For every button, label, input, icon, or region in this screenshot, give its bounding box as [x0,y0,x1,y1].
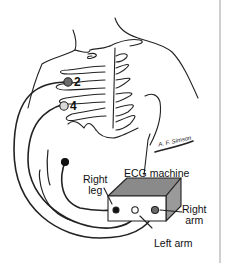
rib-r5 [116,105,133,116]
right-arm-label-line2: arm [182,215,207,226]
rib-r6 [116,115,135,130]
torso-outline-right [145,94,161,145]
sternum [113,48,115,128]
port-right-arm [152,207,159,214]
left-arm-label: Left arm [154,238,193,249]
electrode-4 [60,102,68,110]
rib-l6 [68,121,96,130]
wire-decor [47,150,50,185]
rib-r4 [116,93,132,102]
clavicle-left [75,46,110,52]
right-leg-electrode [62,159,69,166]
electrode-2-label: 2 [74,75,81,89]
right-leg-label-line2: leg [83,185,108,196]
rib-l2 [61,66,106,74]
electrode-2 [64,78,72,86]
neck-outline [73,30,76,50]
right-arm-label: Right arm [182,204,207,226]
port-right-leg [113,207,119,213]
electrode-4-label: 4 [70,99,77,113]
right-leg-label: Right leg [83,174,108,196]
rib-r1 [116,54,127,62]
port-left-arm [132,207,138,213]
ecg-machine-label: ECG machine [124,168,189,179]
rib-r3 [116,78,130,88]
neck-outline-right [115,18,198,98]
rib-l1 [88,53,97,58]
clavicle-right [110,39,142,46]
rib-r2 [116,65,129,75]
